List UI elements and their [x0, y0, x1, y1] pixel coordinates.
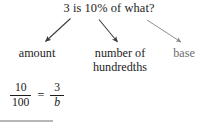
left-fraction: 10 100 — [10, 82, 31, 108]
arrow-to-amount-icon — [46, 19, 71, 42]
right-fraction-denominator: b — [52, 96, 62, 109]
left-fraction-numerator: 10 — [13, 82, 29, 95]
term-label-base: base — [163, 46, 205, 60]
percent-proportion-figure: 3 is 10% of what? amount number of hundr… — [0, 0, 214, 128]
term-label-hundredths-line2: hundredths — [85, 60, 155, 74]
right-fraction-numerator: 3 — [52, 82, 62, 95]
arrow-to-hundredths-icon — [99, 20, 118, 43]
arrow-to-base-icon — [147, 20, 181, 42]
left-fraction-denominator: 100 — [10, 96, 31, 109]
proportion-equation: 10 100 = 3 b — [10, 82, 64, 108]
equals-sign: = — [36, 88, 45, 103]
term-label-hundredths-line1: number of — [95, 46, 145, 60]
term-label-amount: amount — [11, 46, 63, 60]
bottom-divider — [0, 120, 53, 122]
term-label-hundredths: number of hundredths — [85, 46, 155, 74]
right-fraction: 3 b — [50, 82, 64, 108]
question-text: 3 is 10% of what? — [59, 1, 159, 16]
